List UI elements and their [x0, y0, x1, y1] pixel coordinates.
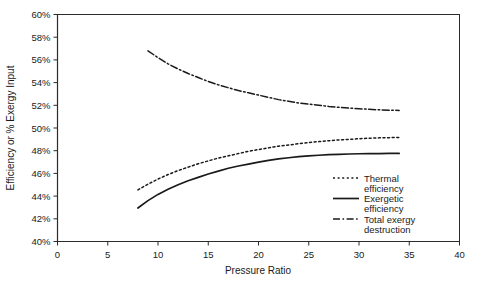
y-tick-label: 58% — [31, 32, 51, 43]
efficiency-vs-pressure-ratio-chart: 40%42%44%46%48%50%52%54%56%58%60% 051015… — [0, 0, 479, 285]
legend-label-line2: destruction — [364, 224, 410, 235]
x-tick-label: 35 — [404, 249, 415, 260]
y-tick-label: 56% — [31, 54, 51, 65]
x-tick-label: 0 — [55, 249, 60, 260]
y-tick-label: 52% — [31, 100, 51, 111]
legend-label-line2: efficiency — [364, 203, 404, 214]
y-tick-label: 42% — [31, 213, 51, 224]
chart-container: 40%42%44%46%48%50%52%54%56%58%60% 051015… — [0, 0, 479, 285]
y-tick-label: 60% — [31, 9, 51, 20]
y-tick-label: 48% — [31, 145, 51, 156]
x-tick-label: 5 — [105, 249, 110, 260]
y-tick-label: 46% — [31, 168, 51, 179]
legend-label-line2: efficiency — [364, 183, 404, 194]
x-tick-label: 20 — [253, 249, 264, 260]
x-tick-label: 25 — [303, 249, 314, 260]
y-tick-label: 44% — [31, 191, 51, 202]
x-tick-label: 30 — [354, 249, 365, 260]
y-axis-title: Efficiency or % Exergy Input — [5, 65, 16, 190]
x-tick-label: 10 — [153, 249, 164, 260]
y-tick-label: 40% — [31, 236, 51, 247]
x-tick-label: 40 — [454, 249, 465, 260]
y-tick-label: 50% — [31, 123, 51, 134]
y-tick-label: 54% — [31, 77, 51, 88]
x-axis-title: Pressure Ratio — [225, 265, 292, 276]
x-tick-label: 15 — [203, 249, 214, 260]
chart-background — [0, 0, 479, 285]
